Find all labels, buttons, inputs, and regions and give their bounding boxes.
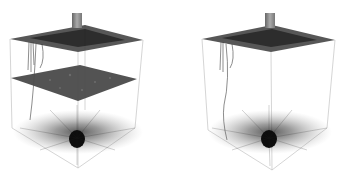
volume-render-right [172, 0, 344, 182]
mid-plane [11, 65, 137, 101]
panel-left [0, 0, 172, 182]
volume-render-left [0, 0, 172, 182]
chimney [265, 13, 275, 28]
panel-right [172, 0, 344, 182]
chimney [72, 13, 82, 28]
